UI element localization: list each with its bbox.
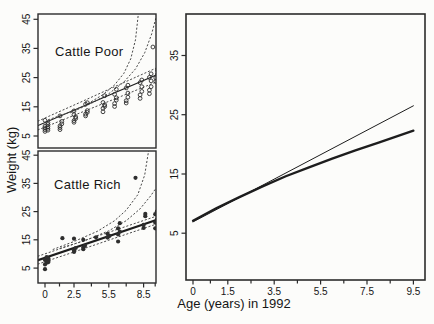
- x-tick-label: 0: [190, 286, 196, 297]
- data-point: [142, 223, 146, 227]
- cattle-rich-panel: 02.55.58.5515253545: [21, 149, 159, 299]
- data-point: [45, 255, 49, 259]
- x-tick-label: 5.5: [102, 289, 116, 300]
- figure: 51525354502.55.58.551525354501.53.55.57.…: [0, 0, 434, 324]
- cattle-rich-marks: [38, 150, 159, 272]
- y-tick-label: 45: [21, 13, 32, 25]
- data-point: [72, 237, 76, 241]
- y-tick-label: 25: [169, 109, 180, 121]
- y-tick-label: 5: [169, 230, 180, 236]
- data-point: [94, 235, 98, 239]
- cattle-rich-y-axis: 515253545: [21, 149, 38, 271]
- x-axis-label: Age (years) in 1992: [177, 296, 290, 311]
- panel-title-cattle-rich: Cattle Rich: [54, 177, 121, 192]
- fitted-comparison-x-axis: 01.53.55.57.59.5: [190, 280, 421, 297]
- x-tick-label: 1.5: [221, 286, 235, 297]
- y-tick-label: 25: [21, 72, 32, 84]
- panel-title-cattle-poor: Cattle Poor: [55, 44, 124, 59]
- cattle-rich-x-axis: 02.55.58.5: [42, 283, 155, 300]
- cattle-poor-panel: 515253545: [21, 13, 159, 148]
- y-axis-label: Weight (kg): [4, 127, 19, 193]
- data-point: [140, 85, 144, 89]
- data-point: [116, 239, 120, 243]
- data-point: [81, 238, 85, 242]
- y-tick-label: 5: [21, 265, 32, 271]
- cattle-poor-box: [38, 14, 156, 148]
- cattle-rich-band-lower: [38, 224, 156, 264]
- data-point: [74, 246, 78, 250]
- data-point: [43, 118, 47, 122]
- data-point: [83, 244, 87, 248]
- x-tick-label: 0: [42, 289, 48, 300]
- data-point: [60, 236, 64, 240]
- data-point: [60, 120, 64, 124]
- cattle-poor-marks: [38, 13, 159, 133]
- fitted-comparison-box: [186, 14, 425, 280]
- y-tick-label: 15: [21, 234, 32, 246]
- data-point: [149, 72, 153, 76]
- x-tick-label: 5.5: [314, 286, 328, 297]
- data-point: [149, 85, 153, 89]
- cattle-poor-y-axis: 515253545: [21, 13, 38, 138]
- y-tick-label: 35: [21, 42, 32, 54]
- cattle-weight-figure: 51525354502.55.58.551525354501.53.55.57.…: [0, 0, 434, 324]
- data-point: [106, 232, 110, 236]
- cattle-poor-band-lower: [38, 82, 156, 130]
- data-point: [43, 267, 47, 271]
- fitted-comparison-y-axis: 5152535: [169, 50, 186, 236]
- data-point: [126, 95, 130, 99]
- y-tick-label: 35: [21, 177, 32, 189]
- x-tick-label: 9.5: [406, 286, 420, 297]
- y-tick-label: 15: [169, 168, 180, 180]
- cattle-rich-box: [38, 151, 156, 283]
- y-tick-label: 45: [21, 149, 32, 161]
- x-tick-label: 2.5: [67, 289, 81, 300]
- y-tick-label: 5: [21, 133, 32, 139]
- cattle-poor-upper-curve-outer: [71, 16, 157, 112]
- cattle-rich-fit-line: [38, 220, 156, 260]
- data-point: [143, 212, 147, 216]
- x-tick-label: 8.5: [137, 289, 151, 300]
- data-point: [116, 226, 120, 230]
- x-tick-label: 7.5: [360, 286, 374, 297]
- data-point: [140, 90, 144, 94]
- fitted-comparison-rich-fit-thick: [193, 131, 413, 221]
- fitted-comparison-panel: 01.53.55.57.59.55152535: [169, 14, 425, 297]
- data-point: [133, 176, 137, 180]
- data-point: [151, 45, 155, 49]
- y-tick-label: 25: [21, 206, 32, 218]
- data-point: [118, 221, 122, 225]
- x-tick-label: 3.5: [267, 286, 281, 297]
- y-tick-label: 15: [21, 101, 32, 113]
- fitted-comparison-marks: [193, 106, 413, 222]
- y-tick-label: 35: [169, 50, 180, 62]
